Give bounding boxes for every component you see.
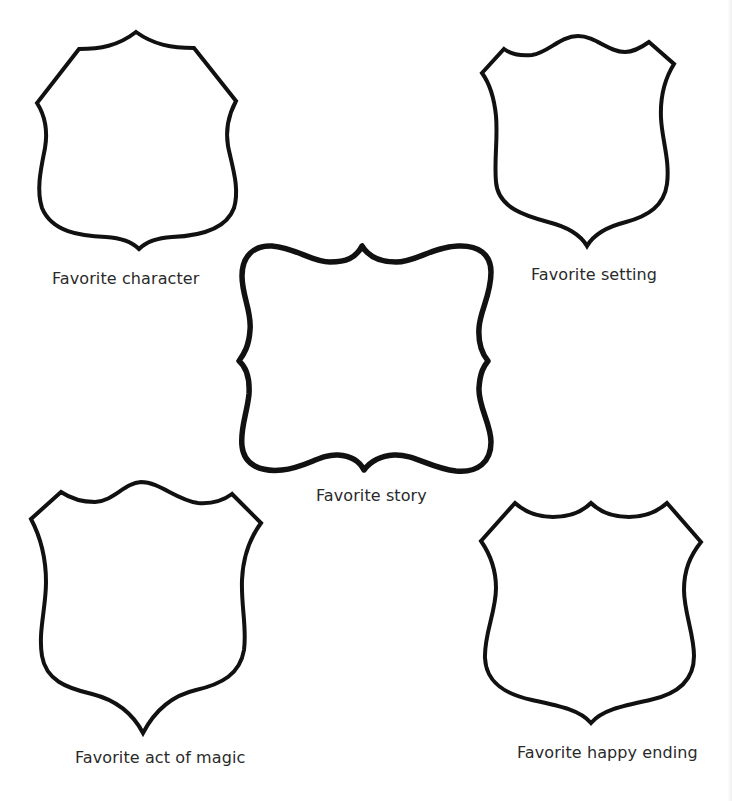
page-edge-shadow bbox=[727, 0, 732, 801]
frames-layer bbox=[0, 0, 732, 801]
favorite-story-label: Favorite story bbox=[316, 486, 427, 505]
favorite-character-box[interactable] bbox=[37, 32, 236, 249]
favorite-story-box[interactable] bbox=[239, 246, 491, 471]
shield-frame-icon bbox=[481, 503, 701, 723]
favorite-happy-ending-label: Favorite happy ending bbox=[517, 743, 698, 762]
bracket-frame-icon bbox=[239, 246, 491, 471]
worksheet-page: Favorite character Favorite setting Favo… bbox=[0, 0, 732, 801]
shield-frame-icon bbox=[37, 32, 236, 249]
shield-frame-icon bbox=[482, 36, 674, 246]
favorite-setting-label: Favorite setting bbox=[531, 265, 657, 284]
favorite-act-of-magic-box[interactable] bbox=[31, 482, 261, 733]
favorite-happy-ending-box[interactable] bbox=[481, 503, 701, 723]
favorite-act-of-magic-label: Favorite act of magic bbox=[75, 748, 245, 767]
shield-frame-icon bbox=[31, 482, 261, 733]
favorite-setting-box[interactable] bbox=[482, 36, 674, 246]
favorite-character-label: Favorite character bbox=[52, 269, 199, 288]
